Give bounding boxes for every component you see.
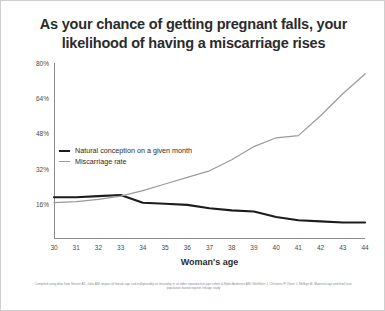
x-axis-title: Woman's age	[54, 257, 365, 267]
y-tick-label: 32%	[23, 165, 49, 172]
legend-swatch-conception-icon	[59, 150, 70, 152]
x-tick-label: 32	[88, 244, 108, 251]
chart-footnote: Compiled using data from Steiner AZ, Juk…	[31, 282, 356, 290]
legend-label-miscarriage: Miscarriage rate	[75, 157, 127, 166]
y-tick-label: 16%	[23, 200, 49, 207]
x-tick-label: 42	[311, 244, 331, 251]
legend-swatch-miscarriage-icon	[59, 161, 70, 162]
x-tick-label: 35	[155, 244, 175, 251]
x-tick-label: 31	[66, 244, 86, 251]
legend-item-miscarriage: Miscarriage rate	[59, 156, 249, 167]
x-tick-label: 43	[333, 244, 353, 251]
x-axis-tick-labels: 303132333435363738394041424344	[54, 244, 365, 256]
x-tick-label: 44	[355, 244, 375, 251]
y-tick-label: 80%	[23, 60, 49, 67]
x-tick-label: 39	[244, 244, 264, 251]
series-line	[54, 74, 365, 203]
x-tick-label: 34	[133, 244, 153, 251]
x-tick-label: 38	[222, 244, 242, 251]
x-tick-label: 41	[288, 244, 308, 251]
legend-label-conception: Natural conception on a given month	[75, 146, 192, 155]
y-tick-label: 64%	[23, 95, 49, 102]
y-tick-label: 48%	[23, 130, 49, 137]
legend-item-conception: Natural conception on a given month	[59, 145, 249, 156]
y-axis-tick-labels: 16%32%48%64%80%	[21, 63, 49, 239]
x-tick-label: 37	[200, 244, 220, 251]
x-tick-label: 30	[44, 244, 64, 251]
x-tick-label: 36	[177, 244, 197, 251]
chart-figure: As your chance of getting pregnant falls…	[0, 0, 385, 311]
x-tick-label: 33	[111, 244, 131, 251]
chart-legend: Natural conception on a given month Misc…	[59, 145, 249, 167]
chart-title: As your chance of getting pregnant falls…	[23, 15, 364, 53]
x-tick-label: 40	[266, 244, 286, 251]
